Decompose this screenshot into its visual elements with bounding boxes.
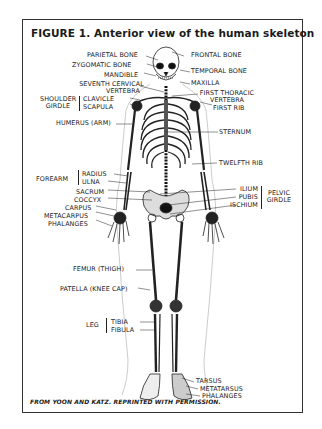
label-radius: RADIUS (82, 171, 107, 178)
label-seventh-cervical: SEVENTH CERVICAL VERTEBRA (66, 81, 144, 95)
label-mandible: MANDIBLE (104, 72, 138, 79)
label-phalanges-hand: PHALANGES (48, 221, 88, 228)
label-femur: FEMUR (THIGH) (73, 266, 124, 273)
label-tarsus: TARSUS (196, 378, 222, 385)
label-fibula: FIBULA (111, 327, 134, 334)
label-tibia: TIBIA (111, 319, 128, 326)
label-ischium: ISCHIUM (222, 202, 258, 209)
label-leg: LEG (86, 322, 99, 329)
label-first-thoracic-line2: VERTEBRA (194, 97, 260, 104)
label-pelvic-girdle: PELVIC GIRDLE (264, 190, 294, 204)
label-ulna: ULNA (82, 179, 100, 186)
label-temporal-bone: TEMPORAL BONE (191, 68, 247, 75)
label-first-rib: FIRST RIB (213, 105, 245, 112)
label-carpus: CARPUS (65, 205, 91, 212)
label-sternum: STERNUM (219, 129, 251, 136)
label-pelvic-girdle-line2: GIRDLE (264, 197, 294, 204)
label-frontal-bone: FRONTAL BONE (191, 52, 242, 59)
label-forearm: FOREARM (36, 176, 68, 183)
label-ilium: ILIUM (222, 186, 258, 193)
label-zygomatic-bone: ZYGOMATIC BONE (72, 62, 131, 69)
label-maxilla: MAXILLA (191, 80, 220, 87)
label-coccyx: COCCYX (74, 197, 101, 204)
label-shoulder-girdle: SHOULDER GIRDLE (40, 96, 76, 110)
label-sacrum: SACRUM (76, 189, 104, 196)
label-parietal-bone: PARIETAL BONE (87, 52, 138, 59)
leg-brace (106, 318, 107, 333)
label-patella: PATELLA (KNEE CAP) (60, 286, 127, 293)
shoulder-girdle-brace (79, 96, 80, 111)
figure-credit: FROM YOON AND KATZ. REPRINTED WITH PERMI… (30, 398, 221, 405)
label-pubis: PUBIS (222, 194, 258, 201)
label-twelfth-rib: TWELFTH RIB (219, 160, 263, 167)
label-scapula: SCAPULA (83, 104, 113, 111)
forearm-brace (78, 170, 79, 185)
label-first-thoracic: FIRST THORACIC VERTEBRA (194, 90, 260, 104)
label-humerus: HUMERUS (ARM) (56, 120, 111, 127)
label-shoulder-girdle-line2: GIRDLE (40, 103, 76, 110)
label-seventh-cervical-line2: VERTEBRA (66, 88, 144, 95)
label-clavicle: CLAVICLE (83, 96, 114, 103)
pelvic-girdle-brace (261, 186, 262, 209)
label-metacarpus: METACARPUS (44, 213, 88, 220)
